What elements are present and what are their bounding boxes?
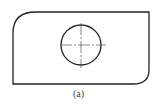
figure-caption: (a) [0, 88, 157, 99]
